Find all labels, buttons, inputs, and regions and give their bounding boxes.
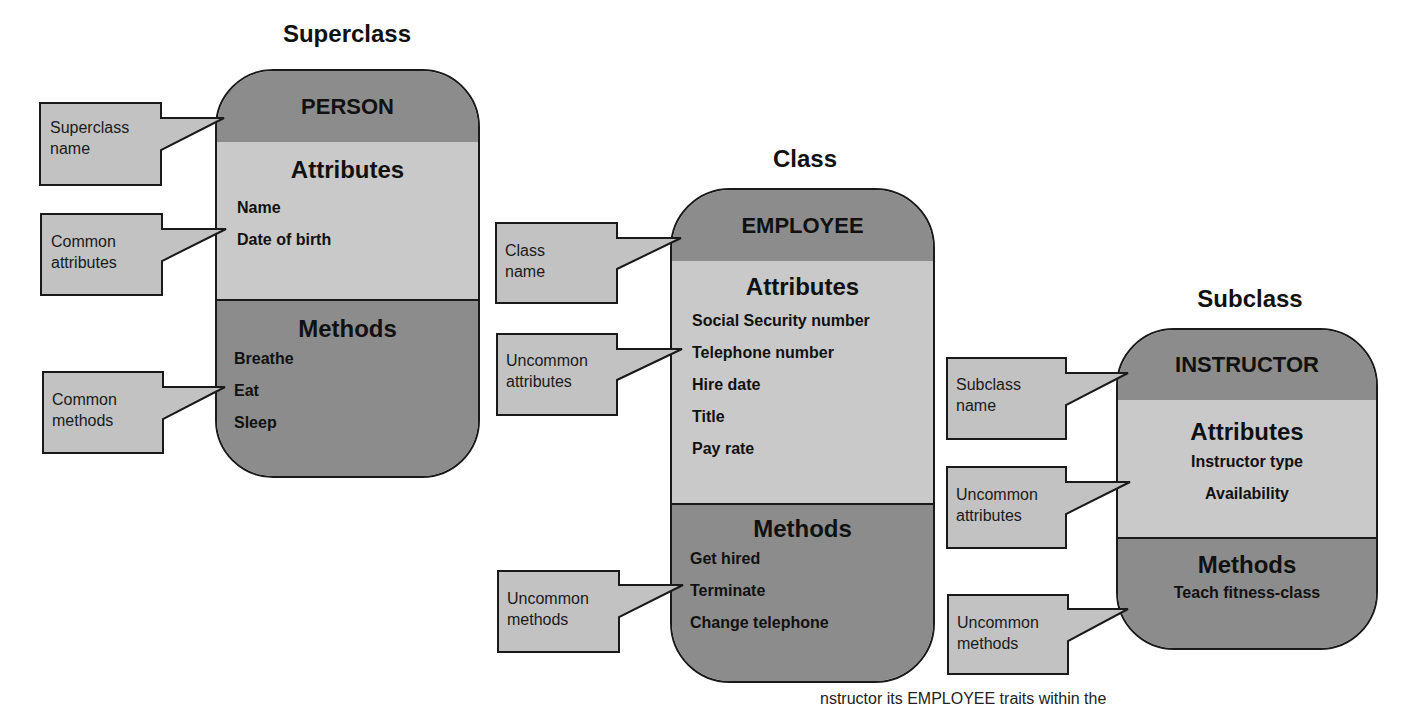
- callout-line: Superclass: [50, 117, 129, 138]
- callout-text: Class name: [505, 240, 545, 282]
- callout-line: attributes: [956, 505, 1038, 526]
- callout-line: Subclass: [956, 374, 1021, 395]
- callout-common-attributes: Common attributes: [51, 231, 117, 273]
- callout-line: attributes: [51, 252, 117, 273]
- callout-common-methods: Common methods: [52, 389, 117, 431]
- callout-line: attributes: [506, 371, 588, 392]
- callout-text: Uncommon methods: [507, 588, 589, 630]
- callout-line: name: [956, 395, 1021, 416]
- callout-line: Uncommon: [957, 612, 1039, 633]
- callout-text: Superclass name: [50, 117, 129, 159]
- callout-text: Uncommon methods: [957, 612, 1039, 654]
- cut-off-caption: nstructor its EMPLOYEE traits within the: [820, 690, 1106, 706]
- callout-uncommon-methods-employee: Uncommon methods: [507, 588, 589, 630]
- callout-line: Common: [51, 231, 117, 252]
- callout-text: Common attributes: [51, 231, 117, 273]
- callout-class-name: Class name: [505, 240, 545, 282]
- callout-text: Subclass name: [956, 374, 1021, 416]
- callout-subclass-name: Subclass name: [956, 374, 1021, 416]
- callout-line: Uncommon: [507, 588, 589, 609]
- callout-superclass-name: Superclass name: [50, 117, 129, 159]
- callout-uncommon-methods-instructor: Uncommon methods: [957, 612, 1039, 654]
- callout-shapes: [0, 0, 1413, 706]
- callout-line: methods: [957, 633, 1039, 654]
- callout-line: Uncommon: [506, 350, 588, 371]
- callout-line: methods: [52, 410, 117, 431]
- callout-line: Common: [52, 389, 117, 410]
- callout-text: Uncommon attributes: [506, 350, 588, 392]
- callout-uncommon-attributes-instructor: Uncommon attributes: [956, 484, 1038, 526]
- callout-line: name: [50, 138, 129, 159]
- callout-uncommon-attributes-employee: Uncommon attributes: [506, 350, 588, 392]
- callout-line: name: [505, 261, 545, 282]
- callout-line: methods: [507, 609, 589, 630]
- callout-text: Uncommon attributes: [956, 484, 1038, 526]
- callout-line: Class: [505, 240, 545, 261]
- callout-line: Uncommon: [956, 484, 1038, 505]
- callout-text: Common methods: [52, 389, 117, 431]
